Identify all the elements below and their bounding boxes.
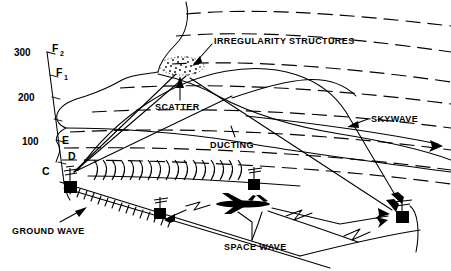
- space-wave-paths: [164, 202, 390, 242]
- layer-F2-base: F: [52, 42, 59, 54]
- label-ground-wave: GROUND WAVE: [12, 226, 85, 236]
- layer-label-C: C: [42, 165, 50, 177]
- label-ducting: DUCTING: [210, 140, 254, 150]
- label-space-wave: SPACE WAVE: [224, 242, 287, 252]
- axis-tick-100: 100: [22, 136, 39, 147]
- ground-wave-hatching: [70, 186, 171, 227]
- layer-label-F1: F 1: [56, 66, 68, 81]
- layer-label-F2: F 2: [52, 42, 64, 57]
- irregularity-patch: [160, 56, 204, 76]
- ground-line: [60, 182, 420, 268]
- axis-tick-300: 300: [14, 47, 31, 58]
- propagation-diagram: 300 200 100 F 2 F 1 E D C IRREGULARITY S…: [0, 0, 451, 271]
- label-scatter: SCATTER: [155, 102, 200, 112]
- axis-tick-200: 200: [18, 92, 35, 103]
- inland-station: [154, 197, 168, 219]
- mid-receiver-station: [248, 167, 262, 190]
- aircraft: [216, 193, 270, 214]
- label-irregularity-structures: IRREGULARITY STRUCTURES: [214, 36, 355, 46]
- layer-F1-sub: 1: [64, 74, 68, 81]
- layer-F2-sub: 2: [60, 50, 64, 57]
- ray-arrowheads: [386, 140, 443, 212]
- layer-F1-base: F: [56, 66, 63, 78]
- ducting-wave-train: [88, 160, 300, 186]
- layer-label-E: E: [62, 134, 69, 146]
- label-skywave: SKYWAVE: [371, 114, 418, 124]
- layer-label-D: D: [68, 150, 76, 162]
